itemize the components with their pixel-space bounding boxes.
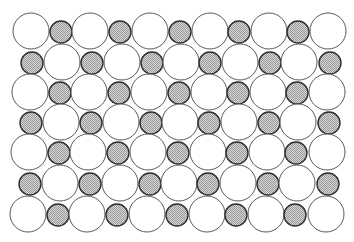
small-hatched-circle	[285, 142, 307, 164]
circle-row	[19, 165, 339, 201]
circle-grid	[10, 13, 346, 232]
large-white-circle	[163, 44, 199, 80]
small-hatched-circle	[167, 142, 189, 164]
large-white-circle	[13, 13, 49, 49]
small-hatched-circle	[319, 52, 341, 74]
circle-row	[20, 104, 340, 140]
small-hatched-circle	[166, 204, 188, 226]
small-hatched-circle	[227, 82, 249, 104]
small-hatched-circle	[317, 173, 339, 195]
small-hatched-circle	[169, 21, 191, 43]
small-hatched-circle	[21, 52, 43, 74]
large-white-circle	[43, 104, 79, 140]
large-white-circle	[72, 13, 108, 49]
large-white-circle	[104, 44, 140, 80]
small-hatched-circle	[287, 21, 309, 43]
small-hatched-circle	[80, 112, 102, 134]
large-white-circle	[69, 196, 105, 232]
large-white-circle	[308, 196, 344, 232]
small-hatched-circle	[108, 82, 130, 104]
large-white-circle	[131, 74, 167, 110]
large-white-circle	[130, 134, 166, 170]
small-hatched-circle	[139, 173, 161, 195]
small-hatched-circle	[257, 173, 279, 195]
small-hatched-circle	[199, 52, 221, 74]
large-white-circle	[251, 13, 287, 49]
small-hatched-circle	[318, 112, 340, 134]
large-white-circle	[191, 74, 227, 110]
large-white-circle	[44, 44, 80, 80]
large-white-circle	[220, 165, 256, 201]
small-hatched-circle	[141, 52, 163, 74]
small-hatched-circle	[79, 173, 101, 195]
small-hatched-circle	[107, 142, 129, 164]
small-hatched-circle	[106, 204, 128, 226]
small-hatched-circle	[140, 112, 162, 134]
large-white-circle	[161, 165, 197, 201]
large-white-circle	[132, 13, 168, 49]
large-white-circle	[10, 196, 46, 232]
small-hatched-circle	[49, 82, 71, 104]
large-white-circle	[310, 13, 346, 49]
small-hatched-circle	[225, 204, 247, 226]
large-white-circle	[221, 104, 257, 140]
large-white-circle	[70, 134, 106, 170]
large-white-circle	[309, 134, 345, 170]
large-white-circle	[279, 165, 315, 201]
small-hatched-circle	[47, 204, 69, 226]
large-white-circle	[192, 13, 228, 49]
large-white-circle	[248, 196, 284, 232]
large-white-circle	[71, 74, 107, 110]
small-hatched-circle	[259, 52, 281, 74]
small-hatched-circle	[50, 21, 72, 43]
small-hatched-circle	[197, 173, 219, 195]
small-hatched-circle	[286, 82, 308, 104]
large-white-circle	[102, 165, 138, 201]
small-hatched-circle	[228, 21, 250, 43]
small-hatched-circle	[198, 112, 220, 134]
large-white-circle	[190, 134, 226, 170]
small-hatched-circle	[226, 142, 248, 164]
small-hatched-circle	[258, 112, 280, 134]
large-white-circle	[103, 104, 139, 140]
small-hatched-circle	[81, 52, 103, 74]
circle-row	[21, 44, 341, 80]
large-white-circle	[42, 165, 78, 201]
large-white-circle	[12, 74, 48, 110]
circle-packing-diagram	[0, 0, 354, 242]
large-white-circle	[249, 134, 285, 170]
small-hatched-circle	[284, 204, 306, 226]
small-hatched-circle	[109, 21, 131, 43]
large-white-circle	[11, 134, 47, 170]
small-hatched-circle	[48, 142, 70, 164]
small-hatched-circle	[20, 112, 42, 134]
small-hatched-circle	[19, 173, 41, 195]
large-white-circle	[162, 104, 198, 140]
large-white-circle	[309, 74, 345, 110]
small-hatched-circle	[168, 82, 190, 104]
large-white-circle	[129, 196, 165, 232]
large-white-circle	[250, 74, 286, 110]
large-white-circle	[281, 44, 317, 80]
large-white-circle	[189, 196, 225, 232]
large-white-circle	[280, 104, 316, 140]
large-white-circle	[222, 44, 258, 80]
